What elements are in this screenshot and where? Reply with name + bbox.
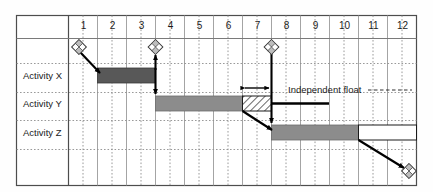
column-header-6: 6 [214, 21, 243, 31]
bar-activity-z-float[interactable] [359, 125, 417, 140]
bar-activity-x[interactable] [98, 68, 156, 83]
column-header-11: 11 [359, 21, 388, 31]
column-header-2: 2 [98, 21, 127, 31]
column-header-12: 12 [388, 21, 417, 31]
row-label-activity-y: Activity Y [23, 99, 62, 109]
column-header-1: 1 [69, 21, 98, 31]
column-header-3: 3 [127, 21, 156, 31]
gantt-chart: 1 2 3 4 5 6 7 8 9 10 11 12 Activity X Ac… [0, 0, 433, 192]
row-label-activity-x: Activity X [23, 71, 62, 81]
bar-activity-y-independent-float[interactable] [243, 96, 272, 111]
independent-float-label: Independent float [288, 85, 361, 95]
column-header-5: 5 [185, 21, 214, 31]
column-header-10: 10 [330, 21, 359, 31]
column-header-8: 8 [272, 21, 301, 31]
row-label-activity-z: Activity Z [23, 128, 62, 138]
column-header-4: 4 [156, 21, 185, 31]
column-header-9: 9 [301, 21, 330, 31]
bar-activity-y[interactable] [156, 96, 243, 111]
bar-activity-z[interactable] [272, 125, 359, 140]
column-header-7: 7 [243, 21, 272, 31]
